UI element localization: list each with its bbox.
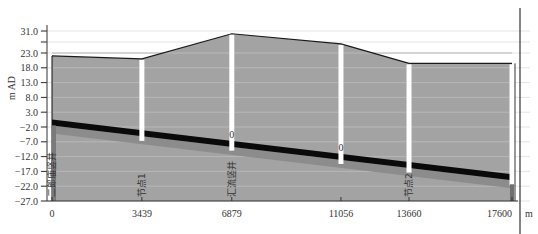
node-name-label: 节点2: [404, 173, 414, 197]
x-tick-label: 13660: [397, 208, 422, 219]
node-name-label: 二郎庙竖井: [46, 152, 57, 197]
x-tick-label: 6879: [222, 208, 242, 219]
node-name-label: 节点1: [137, 173, 147, 197]
x-axis-unit: m: [525, 208, 533, 219]
y-tick-label: −22.0: [15, 181, 38, 192]
x-tick-label: 17600: [487, 208, 512, 219]
profile-chart: 二郎庙竖井节点10汇流竖井0节点231.023.018.013.08.03.0−…: [0, 0, 538, 234]
y-tick-label: −2.0: [20, 122, 38, 133]
x-tick-label: 0: [50, 208, 55, 219]
node-value-label: 0: [229, 129, 234, 140]
x-tick-label: 11056: [329, 208, 354, 219]
node-value-label: 0: [338, 142, 343, 153]
y-tick-label: 13.0: [21, 77, 39, 88]
y-tick-label: −17.0: [15, 166, 38, 177]
y-tick-label: 3.0: [26, 107, 39, 118]
y-tick-label: −27.0: [15, 196, 38, 207]
node-name-label: 汇流竖井: [226, 161, 237, 197]
x-tick-label: 3439: [132, 208, 152, 219]
y-tick-label: 23.0: [21, 48, 39, 59]
node-column: [510, 64, 515, 185]
node-column: [139, 60, 144, 141]
y-tick-label: 18.0: [21, 62, 39, 73]
y-tick-label: 8.0: [26, 92, 39, 103]
y-axis-label: m AD: [6, 76, 17, 100]
y-tick-label: −12.0: [15, 151, 38, 162]
node-column: [407, 64, 412, 172]
y-tick-label: 31.0: [21, 26, 39, 37]
y-tick-label: −7.0: [20, 136, 38, 147]
